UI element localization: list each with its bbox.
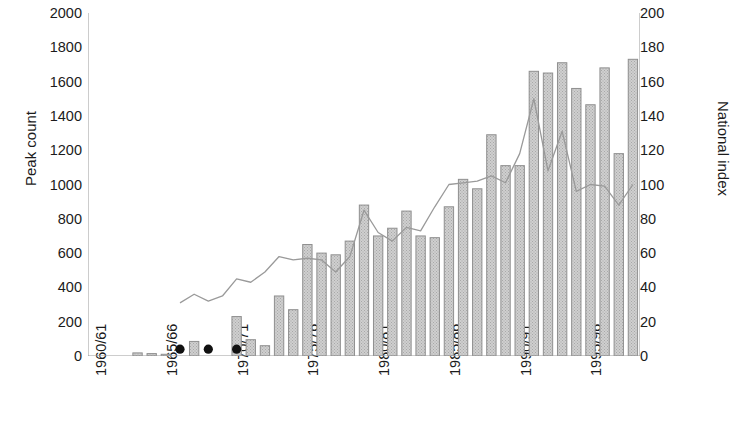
bar bbox=[359, 205, 368, 356]
bar bbox=[246, 340, 255, 356]
y-axis-right-tick-label: 120 bbox=[640, 143, 686, 158]
bar bbox=[303, 245, 312, 356]
plot-area bbox=[88, 13, 640, 356]
bar bbox=[487, 135, 496, 356]
y-axis-right-tick-label: 140 bbox=[640, 109, 686, 124]
data-point-marker bbox=[204, 345, 213, 354]
y-axis-left-tick-label: 1600 bbox=[36, 75, 82, 90]
y-axis-left-tick-label: 200 bbox=[36, 315, 82, 330]
y-axis-right-tick-label: 160 bbox=[640, 75, 686, 90]
bar bbox=[557, 63, 566, 356]
bar bbox=[189, 341, 198, 356]
bar bbox=[373, 236, 382, 356]
bar bbox=[572, 88, 581, 356]
y-axis-left-tick-label: 400 bbox=[36, 280, 82, 295]
y-axis-right-tick-label: 40 bbox=[640, 280, 686, 295]
y-axis-right-tick-label: 80 bbox=[640, 212, 686, 227]
y-axis-left-tick-label: 2000 bbox=[36, 6, 82, 21]
y-axis-left-tick-label: 1200 bbox=[36, 143, 82, 158]
bar bbox=[473, 189, 482, 356]
bar bbox=[458, 179, 467, 356]
bar bbox=[586, 105, 595, 356]
chart-canvas bbox=[88, 13, 640, 356]
y-axis-right-ticks: 200180160140120100806040200 bbox=[640, 0, 686, 437]
bar bbox=[444, 207, 453, 356]
data-point-marker bbox=[175, 345, 184, 354]
y-axis-left-ticks: 2000180016001400120010008006004002000 bbox=[36, 0, 82, 437]
bar bbox=[543, 73, 552, 356]
bars-layer bbox=[133, 59, 638, 356]
y-axis-right-tick-label: 0 bbox=[640, 349, 686, 364]
chart-container: Peak count National index 20001800160014… bbox=[0, 0, 745, 437]
y-axis-left-tick-label: 600 bbox=[36, 246, 82, 261]
bar bbox=[515, 166, 524, 356]
bar bbox=[628, 59, 637, 356]
y-axis-left-tick-label: 1000 bbox=[36, 178, 82, 193]
y-axis-right-tick-label: 200 bbox=[640, 6, 686, 21]
bar bbox=[402, 211, 411, 356]
y-axis-right-tick-label: 100 bbox=[640, 178, 686, 193]
bar bbox=[345, 241, 354, 356]
bar bbox=[289, 310, 298, 356]
y-axis-left-tick-label: 800 bbox=[36, 212, 82, 227]
y-axis-right-title: National index bbox=[715, 89, 732, 209]
y-axis-left-tick-label: 1800 bbox=[36, 40, 82, 55]
bar bbox=[274, 296, 283, 356]
y-axis-right-tick-label: 180 bbox=[640, 40, 686, 55]
bar bbox=[317, 253, 326, 356]
bar bbox=[430, 238, 439, 356]
y-axis-right-tick-label: 60 bbox=[640, 246, 686, 261]
bar bbox=[260, 346, 269, 356]
bar bbox=[388, 228, 397, 356]
y-axis-left-tick-label: 1400 bbox=[36, 109, 82, 124]
data-point-marker bbox=[232, 345, 241, 354]
y-axis-right-tick-label: 20 bbox=[640, 315, 686, 330]
bar bbox=[600, 68, 609, 356]
point-markers-layer bbox=[175, 345, 241, 354]
bar bbox=[501, 166, 510, 356]
bar bbox=[416, 236, 425, 356]
bar bbox=[614, 154, 623, 356]
y-axis-left-tick-label: 0 bbox=[36, 349, 82, 364]
